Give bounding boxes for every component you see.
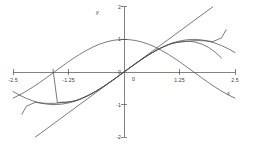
x-tick-label: 1.25 <box>174 77 185 83</box>
x-tick-label: -2.5 <box>8 77 17 83</box>
y-tick-label: -1 <box>112 102 121 108</box>
x-tick-label: -1.25 <box>62 77 74 83</box>
plot-graphics <box>0 0 256 150</box>
y-tick-label: 1 <box>112 36 121 42</box>
y-tick-label: 2 <box>112 4 121 10</box>
y-tick-label: 0 <box>112 69 121 75</box>
y-axis-label: y <box>96 9 99 15</box>
x-axis-label: x <box>227 90 230 96</box>
x-tick-label: 0 <box>132 76 135 82</box>
plot-canvas: -2.5-1.2501.252.5210-1-2 x y <box>0 0 256 150</box>
y-tick-label: -2 <box>112 134 121 140</box>
x-tick-label: 2.5 <box>231 77 239 83</box>
